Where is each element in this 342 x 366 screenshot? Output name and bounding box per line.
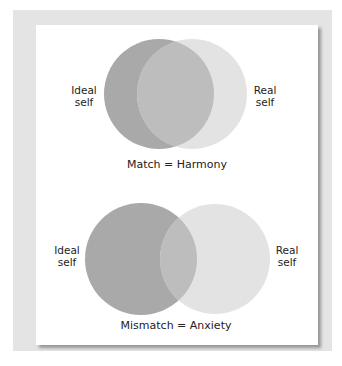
label-line: self [54, 256, 80, 268]
label-line: self [254, 96, 277, 108]
label-line: Real [276, 244, 299, 256]
label-line: self [276, 256, 299, 268]
mismatch-caption: Mismatch = Anxiety [121, 319, 232, 332]
label-line: self [71, 96, 97, 108]
label-line: Ideal [71, 84, 97, 96]
label-line: Ideal [54, 244, 80, 256]
ideal-self-label: Ideal self [54, 244, 80, 268]
mismatch-venn [85, 203, 270, 315]
label-line: Real [254, 84, 277, 96]
real-self-label: Real self [254, 84, 277, 108]
venn-diagrams [0, 0, 342, 366]
real-self-label: Real self [276, 244, 299, 268]
ideal-self-label: Ideal self [71, 84, 97, 108]
match-caption: Match = Harmony [127, 158, 227, 171]
match-venn [104, 39, 247, 149]
